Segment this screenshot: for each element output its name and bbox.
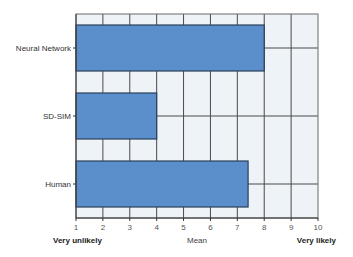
x-tick-label: 2 — [101, 223, 106, 232]
bar-sd-sim — [76, 93, 157, 139]
x-tick-label: 3 — [128, 223, 133, 232]
x-axis-label: Mean — [187, 236, 207, 245]
x-tick-label: 4 — [154, 223, 159, 232]
bar-chart: Neural NetworkSD-SIMHuman 12345678910 Me… — [0, 0, 353, 257]
x-tick-labels: 12345678910 — [74, 218, 323, 232]
x-tick-label: 9 — [289, 223, 294, 232]
x-tick-label: 8 — [262, 223, 267, 232]
x-tick-label: 10 — [314, 223, 323, 232]
category-label: Human — [45, 180, 71, 189]
x-tick-label: 6 — [208, 223, 213, 232]
x-anchor-right-label: Very likely — [297, 236, 337, 245]
x-tick-label: 7 — [235, 223, 240, 232]
bar-neural-network — [76, 25, 264, 71]
category-label: SD-SIM — [43, 112, 71, 121]
x-anchor-left-label: Very unlikely — [53, 236, 102, 245]
bar-human — [76, 161, 248, 207]
x-tick-label: 5 — [181, 223, 186, 232]
category-label: Neural Network — [16, 44, 72, 53]
category-labels: Neural NetworkSD-SIMHuman — [16, 44, 76, 189]
x-tick-label: 1 — [74, 223, 79, 232]
